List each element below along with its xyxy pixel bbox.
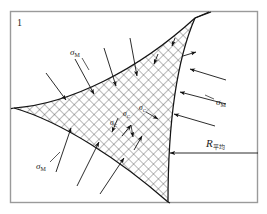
stress-label-lower-left: σM xyxy=(36,162,46,172)
sigma-subscript-c: C xyxy=(143,108,146,113)
stress-label-upper-left: σM xyxy=(70,48,80,58)
contact-stress-label-1: σC xyxy=(123,110,130,119)
sigma-subscript-c: C xyxy=(127,114,130,119)
sigma-subscript-m: M xyxy=(74,52,79,58)
sigma-subscript-c: C xyxy=(114,123,117,128)
r-glyph: R xyxy=(206,137,213,149)
stress-label-right: σM xyxy=(216,98,226,108)
diagram-canvas xyxy=(0,0,267,214)
r-subscript-average: 平均 xyxy=(213,143,225,150)
figure-index-label: 1 xyxy=(17,18,22,28)
contact-stress-label-2: σC xyxy=(139,104,146,113)
sigma-subscript-m: M xyxy=(220,102,225,108)
figure-root: 1 σM σM σM σC σC σC R平均 xyxy=(0,0,267,214)
tangent-extension-left xyxy=(11,108,14,109)
contact-stress-label-3: σC xyxy=(110,119,117,128)
sigma-subscript-m: M xyxy=(40,166,45,172)
average-radius-label: R平均 xyxy=(206,138,225,150)
